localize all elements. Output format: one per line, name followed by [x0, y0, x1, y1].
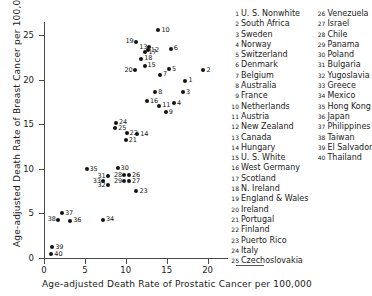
legend-item: 30Poland — [314, 50, 372, 60]
legend-item-label: Portugal — [241, 215, 274, 225]
x-tick-mark — [126, 259, 127, 264]
legend-item: 20Ireland — [228, 205, 308, 215]
legend-item-number: 20 — [228, 205, 241, 215]
data-point-label: 13 — [139, 44, 147, 51]
legend-item: 2South Africa — [228, 19, 308, 29]
y-tick-mark — [39, 213, 44, 214]
legend-item-label: Belgium — [241, 71, 274, 81]
legend-item-label: Bulgaria — [327, 60, 360, 70]
legend-item-label: Israel — [327, 19, 349, 29]
data-point — [127, 173, 131, 177]
data-point — [106, 174, 110, 178]
y-tick-mark — [39, 169, 44, 170]
x-tick-mark — [44, 259, 45, 264]
legend-item-number: 19 — [228, 194, 241, 204]
legend-item-number: 33 — [314, 81, 327, 91]
legend-item-number: 2 — [228, 19, 241, 29]
legend-item-number: 11 — [228, 112, 241, 122]
legend-item-label: Ireland — [241, 205, 269, 215]
x-tick-label: 10 — [114, 266, 138, 275]
data-point — [49, 252, 53, 256]
legend-item-number: 37 — [314, 122, 327, 132]
legend-item-label: Mexico — [327, 91, 355, 101]
data-point — [113, 126, 117, 130]
legend-item: 31Bulgaria — [314, 60, 372, 70]
legend-item-number: 38 — [314, 133, 327, 143]
x-tick-label: 15 — [155, 266, 179, 275]
legend-item: 17Scotland — [228, 174, 308, 184]
legend-column-1: 1U. S. Nonwhite2South Africa3Sweden4Norw… — [228, 9, 308, 239]
data-point-label: 3 — [186, 89, 190, 96]
legend-item-number: 39 — [314, 143, 327, 153]
data-point-label: 36 — [73, 217, 81, 224]
legend-item-label: Yugoslavia — [327, 71, 369, 81]
legend-item-label: Austria — [241, 112, 269, 122]
x-tick-label: 20 — [196, 266, 220, 275]
data-point-label: 16 — [150, 98, 158, 105]
x-axis-title: Age-adjusted Death Rate of Prostatic Can… — [42, 279, 312, 289]
legend-item-label: Scotland — [241, 174, 276, 184]
legend-item-label: Japan — [327, 112, 349, 122]
legend-item-label: Sweden — [241, 30, 273, 40]
legend-column-2: 26Venezuela27Israel28Chile29Panama30Pola… — [314, 9, 372, 239]
legend-item: 7Belgium — [228, 71, 308, 81]
legend-item: 34Mexico — [314, 91, 372, 101]
legend-item-number: 8 — [228, 81, 241, 91]
data-point-label: 40 — [54, 251, 62, 258]
legend-item: 1U. S. Nonwhite — [228, 9, 308, 19]
data-point-label: 11 — [162, 102, 170, 109]
legend-item-number: 34 — [314, 91, 327, 101]
legend-item: 38Taiwan — [314, 133, 372, 143]
data-point — [139, 57, 143, 61]
data-point — [145, 99, 149, 103]
legend-item: 5Switzerland — [228, 50, 308, 60]
legend-item-label: Canada — [241, 133, 271, 143]
data-point — [122, 173, 126, 177]
legend-item: 14Hungary — [228, 143, 308, 153]
data-point-label: 34 — [106, 216, 114, 223]
legend-item-number: 32 — [314, 71, 327, 81]
y-tick-mark — [39, 35, 44, 36]
legend-item: 22Finland — [228, 225, 308, 235]
legend-item-number: 4 — [228, 40, 241, 50]
legend-item: 37Philippines — [314, 122, 372, 132]
legend-item-number: 15 — [228, 153, 241, 163]
legend-item-number: 12 — [228, 122, 241, 132]
legend-item-label: Poland — [327, 50, 354, 60]
legend-item-number: 24 — [228, 246, 241, 256]
legend-item: 12New Zealand — [228, 122, 308, 132]
data-point-label: 27 — [132, 178, 140, 185]
legend-item-label: France — [241, 91, 268, 101]
data-point-label: 21 — [129, 137, 137, 144]
legend-item: 13Canada — [228, 133, 308, 143]
data-point — [134, 40, 138, 44]
data-point — [127, 179, 131, 183]
legend-item-number: 22 — [228, 225, 241, 235]
legend-item-number: 23 — [228, 236, 241, 246]
data-point-label: 4 — [177, 100, 181, 107]
legend-item-number: 9 — [228, 91, 241, 101]
data-point-label: 18 — [144, 55, 152, 62]
plot-area: 0510152025 05101520 12345678910111213141… — [0, 0, 232, 296]
data-point — [167, 67, 171, 71]
legend-item-label: Puerto Rico — [241, 236, 287, 246]
legend-item-number: 3 — [228, 30, 241, 40]
legend-item-number: 26 — [314, 9, 327, 19]
legend-item: 29Panama — [314, 40, 372, 50]
x-axis-line — [44, 258, 228, 259]
legend-item: 40Thailand — [314, 153, 372, 163]
x-tick-label: 5 — [73, 266, 97, 275]
x-tick-mark — [208, 259, 209, 264]
legend-item: 28Chile — [314, 30, 372, 40]
legend-item-number: 7 — [228, 71, 241, 81]
legend-item-label: Italy — [241, 246, 258, 256]
legend-item: 36Japan — [314, 112, 372, 122]
data-point-label: 14 — [140, 131, 148, 138]
legend-item-number: 17 — [228, 174, 241, 184]
data-point — [201, 68, 205, 72]
data-point-label: 19 — [125, 38, 133, 45]
legend-item-label: Panama — [327, 40, 359, 50]
legend-item-label: Denmark — [241, 60, 278, 70]
data-point — [164, 110, 168, 114]
